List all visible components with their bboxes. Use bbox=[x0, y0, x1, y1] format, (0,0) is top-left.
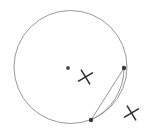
upper-right-point bbox=[122, 66, 126, 70]
figure-canvas: Circle with chord, arc and two X marks bbox=[0, 0, 148, 140]
diagram-background bbox=[0, 0, 148, 140]
lower-point bbox=[89, 118, 93, 122]
center-point bbox=[66, 66, 70, 70]
circle-geometry-diagram bbox=[0, 0, 148, 140]
